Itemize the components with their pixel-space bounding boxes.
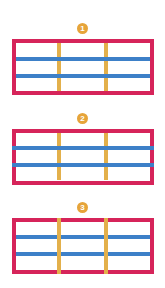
vertical-line-2a (57, 133, 61, 180)
step-badge-1: 1 (77, 23, 88, 34)
vertical-line-1a (57, 43, 61, 91)
horizontal-line-3b (16, 252, 150, 256)
vertical-line-1b (104, 43, 108, 91)
horizontal-line-2a (12, 146, 154, 150)
horizontal-line-2b (12, 163, 154, 167)
step-badge-3: 3 (77, 202, 88, 213)
horizontal-line-1a (16, 57, 150, 61)
frame-2 (12, 129, 154, 185)
vertical-line-3a (57, 218, 61, 274)
horizontal-line-3a (16, 235, 150, 239)
vertical-line-2b (104, 133, 108, 180)
horizontal-line-1b (16, 74, 150, 78)
frame-1 (12, 39, 154, 95)
vertical-line-3b (104, 218, 108, 274)
frame-3 (12, 218, 154, 274)
step-badge-2: 2 (77, 113, 88, 124)
